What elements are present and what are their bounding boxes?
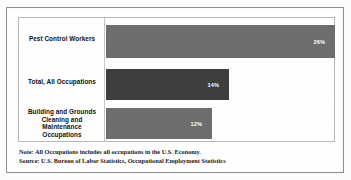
bar-value-label: 26% [314, 39, 326, 45]
category-label: Total, All Occupations [22, 78, 102, 86]
category-label: Building and Grounds Cleaning and Mainte… [22, 108, 102, 138]
bar-total-all-occupations: 14% [106, 69, 229, 100]
category-label-line: Building and Grounds [22, 108, 102, 116]
bar-row: Total, All Occupations 14% [19, 63, 334, 103]
bar-value-label: 12% [191, 121, 203, 127]
note-line: Note: All Occupations includes all occup… [19, 148, 329, 157]
bar-rows: Pest Control Workers 26% Total, All Occu… [19, 18, 334, 141]
figure-footnotes: Note: All Occupations includes all occup… [19, 148, 329, 165]
cropped-heading-artifact [0, 0, 351, 5]
category-label-line: Occupations [22, 131, 102, 139]
category-label-line: Cleaning and [22, 116, 102, 124]
category-label: Pest Control Workers [22, 35, 102, 43]
bar-row: Building and Grounds Cleaning and Mainte… [19, 103, 334, 142]
figure-page: Pest Control Workers 26% Total, All Occu… [0, 0, 351, 180]
bar-pest-control-workers: 26% [106, 25, 335, 58]
bar-building-grounds-cleaning-maintenance: 12% [106, 108, 212, 139]
chart-plot-area: Pest Control Workers 26% Total, All Occu… [18, 17, 335, 142]
figure-outer-frame: Pest Control Workers 26% Total, All Occu… [6, 7, 344, 173]
category-label-line: Total, All Occupations [22, 78, 102, 86]
category-label-line: Pest Control Workers [22, 35, 102, 43]
source-line: Source: U.S. Bureau of Labor Statistics,… [19, 157, 329, 166]
bar-row: Pest Control Workers 26% [19, 18, 334, 63]
bar-value-label: 14% [208, 82, 220, 88]
category-label-line: Maintenance [22, 123, 102, 131]
